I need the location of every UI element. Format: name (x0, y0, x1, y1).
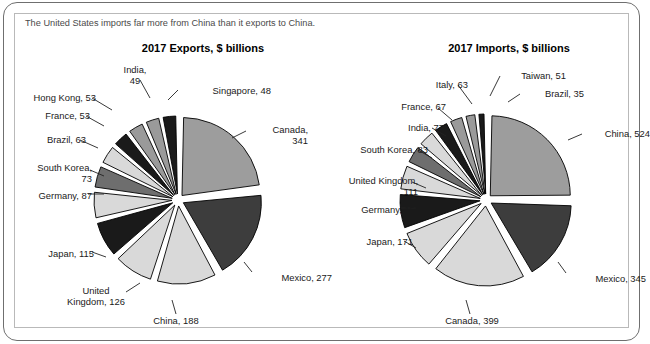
exports-label-china: China, 188 (138, 315, 214, 326)
exports-label-uk: UnitedKingdom, 126 (52, 285, 140, 307)
exports-label-canada: Canada,341 (248, 124, 308, 146)
imports-label-canada: Canada, 399 (432, 315, 512, 326)
imports-label-germany: Germany, 153 (330, 204, 420, 215)
exports-label-japan: Japan, 115 (22, 248, 94, 259)
exports-label-france: France, 53 (20, 110, 90, 121)
imports-label-china: China, 524 (584, 128, 650, 139)
exports-label-mexico: Mexico, 277 (252, 272, 332, 283)
figure-caption: The United States imports far more from … (25, 18, 315, 28)
imports-label-india: India, 77 (382, 122, 444, 133)
imports-chart-title: 2017 Imports, $ billions (424, 42, 594, 54)
imports-label-italy: Italy, 63 (414, 79, 468, 90)
imports-label-taiwan: Taiwan, 51 (504, 70, 566, 81)
exports-label-singapore: Singapore, 48 (181, 85, 271, 96)
exports-label-south-korea: South Korea,73 (6, 162, 92, 184)
imports-label-mexico: Mexico, 345 (566, 273, 646, 284)
imports-label-south-korea: South Korea, 83 (336, 144, 428, 155)
exports-label-germany: Germany, 87 (20, 190, 92, 201)
exports-label-brazil: Brazil, 63 (14, 134, 86, 145)
imports-label-brazil: Brazil, 35 (524, 88, 584, 99)
exports-label-hong-kong: Hong Kong, 53 (14, 92, 96, 103)
exports-chart-title: 2017 Exports, $ billions (118, 42, 288, 54)
imports-label-japan: Japan, 171 (339, 236, 413, 247)
exports-label-india: India,49 (113, 64, 157, 86)
imports-label-uk: United Kingdom,111 (326, 175, 418, 197)
imports-label-france: France, 67 (382, 101, 446, 112)
